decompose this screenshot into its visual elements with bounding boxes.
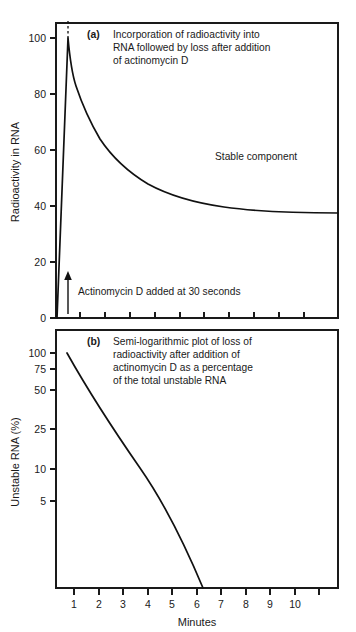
panel-a-letter: (a) (87, 29, 100, 40)
panel-b-title-line-1: Semi-logarithmic plot of loss of (113, 336, 252, 347)
panel-b-ytick-25: 25 (34, 423, 46, 435)
panel-b-y-axis-title: Unstable RNA (%) (9, 417, 21, 506)
panel-a-ytick-20: 20 (34, 256, 46, 268)
panel-a-title-line-3: of actinomycin D (113, 55, 188, 66)
panel-a-ytick-100: 100 (28, 32, 46, 44)
panel-b-xtick-10: 10 (289, 598, 301, 610)
panel-b-xtick-7: 7 (218, 598, 224, 610)
panel-b-curve (67, 353, 203, 588)
panel-b: 100 75 50 25 10 5 Unstable RNA (%) 1 2 3… (9, 330, 338, 628)
panel-b-xtick-8: 8 (243, 598, 249, 610)
panel-b-ytick-5: 5 (40, 495, 46, 507)
panel-b-xtick-5: 5 (169, 598, 175, 610)
panel-b-xtick-4: 4 (145, 598, 151, 610)
panel-b-title-line-2: radioactivity after addition of (113, 349, 240, 360)
panel-a-annotation: Actinomycin D added at 30 seconds (78, 286, 241, 297)
panel-a-ytick-60: 60 (34, 144, 46, 156)
panel-b-title-line-3: actinomycin D as a percentage (113, 362, 253, 373)
panel-b-ytick-75: 75 (34, 363, 46, 375)
panel-b-letter: (b) (87, 336, 100, 347)
panel-b-ytick-50: 50 (34, 384, 46, 396)
figure-svg: 0 20 40 60 80 100 Radioactivity in RNA (0, 0, 356, 632)
panel-a-x-ticks (80, 312, 304, 318)
panel-b-ytick-10: 10 (34, 463, 46, 475)
panel-b-xtick-1: 1 (71, 598, 77, 610)
panel-b-xtick-2: 2 (96, 598, 102, 610)
panel-a-frame (56, 23, 338, 318)
panel-b-xtick-9: 9 (267, 598, 273, 610)
panel-b-ytick-100: 100 (28, 347, 46, 359)
panel-a-y-axis-title: Radioactivity in RNA (9, 121, 21, 222)
panel-a-stable-component-label: Stable component (215, 151, 297, 162)
panel-b-xtick-6: 6 (194, 598, 200, 610)
panel-a-curve (57, 38, 338, 318)
panel-b-x-axis-title: Minutes (178, 616, 217, 628)
panel-a-ytick-80: 80 (34, 88, 46, 100)
panel-b-xtick-3: 3 (120, 598, 126, 610)
panel-b-y-ticks (50, 353, 56, 501)
panel-b-x-ticks (74, 588, 319, 595)
figure-container: 0 20 40 60 80 100 Radioactivity in RNA (0, 0, 356, 632)
panel-a-ytick-40: 40 (34, 200, 46, 212)
panel-a-y-ticks (50, 38, 56, 318)
panel-a: 0 20 40 60 80 100 Radioactivity in RNA (9, 21, 338, 324)
panel-b-title-line-4: of the total unstable RNA (113, 375, 226, 386)
actinomycin-arrow-icon (64, 271, 72, 314)
panel-a-title-line-2: RNA followed by loss after addition (113, 42, 270, 53)
panel-a-title-line-1: Incorporation of radioactivity into (113, 29, 260, 40)
panel-a-ytick-0: 0 (40, 312, 46, 324)
